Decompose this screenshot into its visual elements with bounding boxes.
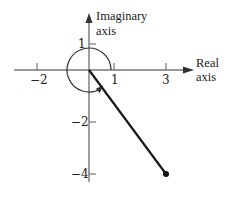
real-axis-arrow-icon xyxy=(183,67,194,74)
real-axis-label-line1: Real xyxy=(196,56,219,70)
tick-label-real-1: 1 xyxy=(111,73,119,87)
imaginary-axis-label-line1: Imaginary xyxy=(96,9,148,23)
tick-label-real-neg2: −2 xyxy=(30,73,48,87)
complex-plane-diagram: −2 1 3 1 −2 −4 Imaginary axis Real axis xyxy=(0,0,227,197)
vector-to-point xyxy=(89,70,166,174)
tick-label-imag-neg4: −4 xyxy=(71,167,89,181)
point-3-neg4 xyxy=(163,171,169,177)
tick-label-real-3: 3 xyxy=(162,73,170,87)
real-axis-label-line2: axis xyxy=(196,70,216,84)
imaginary-axis-arrow-icon xyxy=(86,13,93,23)
tick-label-imag-neg2: −2 xyxy=(71,115,89,129)
imaginary-axis-label-line2: axis xyxy=(96,24,116,38)
